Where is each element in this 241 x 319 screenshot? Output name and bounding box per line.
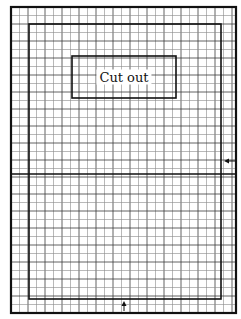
bottom-edge-marker-arrow-icon (122, 301, 127, 306)
inner-border (29, 24, 221, 299)
grid-lines (11, 7, 236, 313)
cutout-label: Cut out (96, 70, 151, 85)
grid-diagram (0, 0, 241, 319)
right-edge-marker-arrow-icon (224, 159, 229, 164)
